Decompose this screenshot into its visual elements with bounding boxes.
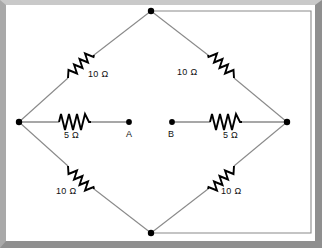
resistor-label-top-left: 10 Ω bbox=[88, 69, 108, 79]
node-left bbox=[16, 119, 22, 125]
resistor-label-left-5ohm: 5 Ω bbox=[64, 130, 79, 140]
wire-left-to-bottomleft-res bbox=[19, 122, 68, 166]
circuit-diagram-figure: 10 Ω 10 Ω 10 Ω 10 Ω 5 Ω 5 Ω A B bbox=[0, 0, 322, 248]
wire-bottomright-res-to-right bbox=[234, 122, 287, 166]
resistor-symbols bbox=[59, 54, 242, 191]
node-bottom bbox=[148, 230, 154, 236]
terminal-label-a: A bbox=[126, 129, 132, 139]
resistor-right-5ohm-zigzag bbox=[210, 114, 242, 130]
resistor-top-right-zigzag bbox=[208, 54, 234, 79]
resistor-label-bottom-right: 10 Ω bbox=[221, 186, 241, 196]
wire-bottom-to-bottomright-res bbox=[151, 189, 208, 233]
resistor-label-bottom-left: 10 Ω bbox=[56, 186, 76, 196]
wire-bottomleft-res-to-bottom bbox=[94, 189, 151, 233]
resistor-left-5ohm-zigzag bbox=[59, 114, 91, 130]
terminal-label-b: B bbox=[168, 129, 174, 139]
node-terminal-a bbox=[126, 119, 132, 125]
wire-top-to-topright-res bbox=[151, 11, 208, 55]
node-top bbox=[148, 8, 154, 14]
wire-topright-res-to-right bbox=[234, 78, 287, 122]
circuit-canvas bbox=[0, 0, 322, 248]
resistor-label-top-right: 10 Ω bbox=[177, 67, 197, 77]
node-terminal-b bbox=[169, 119, 175, 125]
wire-topleft-res-to-top bbox=[94, 11, 151, 55]
resistor-label-right-5ohm: 5 Ω bbox=[223, 130, 238, 140]
node-right bbox=[284, 119, 290, 125]
